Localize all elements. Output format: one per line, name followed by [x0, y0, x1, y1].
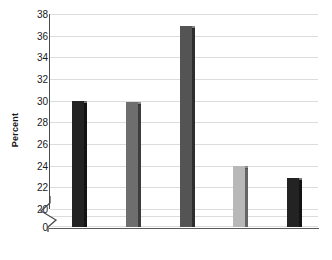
bar-side-shadow	[299, 180, 302, 227]
bar-top-bevel	[192, 26, 195, 29]
y-axis-tick-32: 32	[8, 74, 48, 85]
bar-top-bevel	[245, 166, 248, 169]
bar-face	[180, 26, 192, 227]
y-axis-tick-38: 38	[8, 9, 48, 20]
bar-4	[233, 166, 248, 227]
bar-5	[287, 178, 302, 227]
bar-1	[72, 101, 87, 227]
y-axis-tick-22: 22	[8, 182, 48, 193]
bar-side-shadow	[192, 28, 195, 227]
bar-top-bevel	[138, 102, 141, 105]
bar-face	[72, 101, 84, 227]
bar-side-shadow	[84, 103, 87, 227]
y-axis-tick-26: 26	[8, 139, 48, 150]
bar-2	[126, 102, 141, 227]
bar-side-shadow	[138, 104, 141, 227]
bar-chart: Percent 020222426283032343638	[0, 0, 332, 260]
y-axis-line	[49, 14, 50, 209]
bar-face	[287, 178, 299, 227]
bar-3	[180, 26, 195, 227]
y-axis-tick-28: 28	[8, 117, 48, 128]
x-axis-line	[49, 228, 319, 229]
bar-face	[126, 102, 138, 227]
y-axis-tick-30: 30	[8, 95, 48, 106]
bar-top-bevel	[299, 178, 302, 181]
axis-break-zigzag	[38, 196, 60, 232]
plot-area	[50, 14, 318, 228]
y-axis-tick-36: 36	[8, 30, 48, 41]
y-axis-tick-24: 24	[8, 160, 48, 171]
bar-side-shadow	[245, 168, 248, 227]
bar-face	[233, 166, 245, 227]
bar-top-bevel	[84, 101, 87, 104]
y-axis-tick-34: 34	[8, 52, 48, 63]
gridline	[50, 14, 318, 15]
